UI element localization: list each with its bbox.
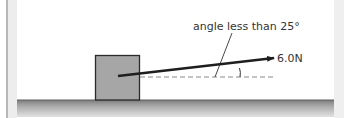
block: [96, 56, 140, 101]
force-arrow: [118, 58, 274, 76]
angle-label: angle less than 25°: [193, 20, 300, 33]
ground-surface: [17, 100, 334, 117]
angle-arc: [240, 68, 241, 77]
force-magnitude-label: 6.0N: [277, 52, 303, 65]
force-diagram: angle less than 25° 6.0N: [0, 0, 344, 118]
label-leader-line: [215, 33, 232, 77]
